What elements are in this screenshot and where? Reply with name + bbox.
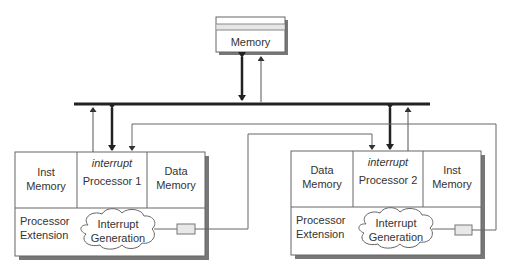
interrupt-port-2	[455, 225, 472, 235]
p1-processor-label: Processor 1	[77, 174, 147, 188]
p1-data-memory-label: Data Memory	[147, 164, 205, 192]
p2-processor-label: Processor 2	[353, 173, 423, 187]
p2-interrupt-generation-label: Interrupt Generation	[360, 216, 432, 244]
p1-inst-memory-label: Inst Memory	[15, 165, 77, 193]
interrupt-port-1	[177, 224, 195, 234]
p2-inst-memory-label: Inst Memory	[423, 163, 481, 191]
p1-interrupt-generation-label: Interrupt Generation	[82, 217, 154, 245]
p2-extension-label: Processor Extension	[296, 213, 346, 241]
p2-data-memory-label: Data Memory	[291, 163, 353, 191]
p1-interrupt-label: interrupt	[77, 156, 147, 170]
memory-label: Memory	[216, 35, 285, 49]
p2-interrupt-label: interrupt	[353, 155, 423, 169]
p1-extension-label: Processor Extension	[20, 214, 70, 242]
